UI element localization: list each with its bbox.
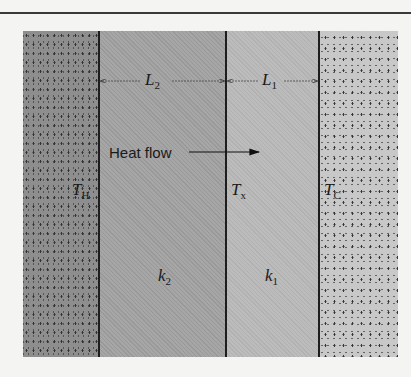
dimension-arrows — [0, 0, 411, 377]
conductivity-label-k1: k1 — [265, 266, 278, 287]
temperature-label-Tx: Tx — [231, 180, 246, 201]
heat-flow-label: Heat flow — [109, 144, 172, 161]
conductivity-label-k2: k2 — [158, 266, 171, 287]
thickness-label-L2: L2 — [145, 70, 160, 91]
thickness-label-L1: L1 — [262, 70, 277, 91]
temperature-label-TH: TH — [72, 180, 89, 201]
temperature-label-TC: TC — [324, 180, 341, 201]
